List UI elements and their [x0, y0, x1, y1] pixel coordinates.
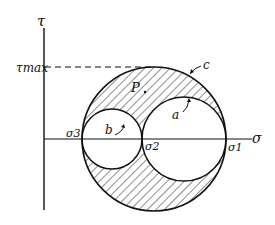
tau-max-label: τmax — [16, 61, 48, 75]
label-sigma3: σ3 — [66, 127, 81, 140]
label-sigma1: σ1 — [228, 141, 243, 154]
mohr-circle-diagram: τ σ τmax c b a P σ3 σ2 σ1 — [0, 0, 275, 225]
hatched-region — [0, 0, 275, 225]
label-c: c — [203, 58, 210, 72]
label-a: a — [172, 108, 179, 122]
sigma-axis-label: σ — [252, 130, 262, 146]
label-sigma2: σ2 — [145, 140, 160, 153]
tau-axis-label: τ — [37, 12, 46, 30]
label-p: P — [130, 80, 140, 95]
point-p-dot — [144, 91, 146, 93]
label-b: b — [105, 123, 113, 137]
